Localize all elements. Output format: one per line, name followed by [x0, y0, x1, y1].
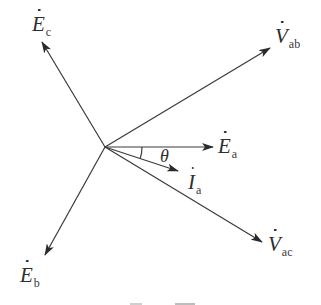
label-ia: Ia	[188, 172, 201, 196]
label-vac: Vac	[268, 234, 292, 258]
label-ec: Ec	[32, 14, 51, 38]
theta-label: θ	[160, 147, 169, 165]
theta-angle-arc	[140, 147, 142, 159]
phasor-ec-arrow	[42, 42, 105, 147]
label-ea: Ea	[218, 136, 237, 160]
label-vab: Vab	[275, 26, 300, 50]
phasor-eb-arrow	[45, 147, 105, 255]
phasor-vab-arrow	[105, 48, 270, 147]
phasor-vac-arrow	[105, 147, 262, 242]
label-eb: Eb	[20, 265, 40, 289]
